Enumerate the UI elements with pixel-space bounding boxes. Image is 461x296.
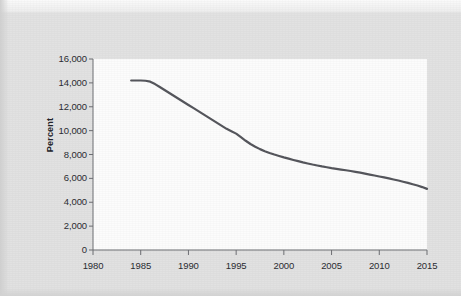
x-axis-tick-label: 2005 xyxy=(312,260,352,271)
data-series-group xyxy=(131,80,427,188)
y-axis-tick-label: 16,000 xyxy=(35,53,87,64)
chart-axes xyxy=(93,59,427,250)
x-axis-tick-label: 2000 xyxy=(264,260,304,271)
y-axis-tick-label: 6,000 xyxy=(35,172,87,183)
x-axis-tick-label: 1980 xyxy=(73,260,113,271)
y-axis-tick-label: 12,000 xyxy=(35,101,87,112)
line-chart-figure: Percent 02,0004,0006,0008,00010,00012,00… xyxy=(0,0,461,296)
x-axis-tick-label: 1990 xyxy=(168,260,208,271)
x-axis-tick-label: 1995 xyxy=(216,260,256,271)
y-axis-tick-label: 14,000 xyxy=(35,77,87,88)
y-axis-ticks xyxy=(89,59,93,250)
page-background: Percent 02,0004,0006,0008,00010,00012,00… xyxy=(0,0,461,296)
x-axis-tick-label: 2010 xyxy=(359,260,399,271)
y-axis-tick-label: 10,000 xyxy=(35,125,87,136)
x-axis-tick-label: 1985 xyxy=(121,260,161,271)
data-line-percent xyxy=(131,80,427,188)
y-axis-tick-label: 8,000 xyxy=(35,149,87,160)
x-axis-ticks xyxy=(93,250,427,255)
x-axis-tick-label: 2015 xyxy=(407,260,447,271)
y-axis-tick-label: 0 xyxy=(35,244,87,255)
y-axis-tick-label: 4,000 xyxy=(35,196,87,207)
y-axis-tick-label: 2,000 xyxy=(35,220,87,231)
